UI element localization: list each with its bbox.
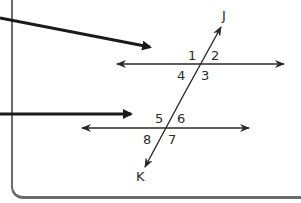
angle-label-7: 7 [168, 133, 176, 146]
diagram-lines [0, 0, 301, 203]
point-label-j: J [222, 9, 226, 22]
pointer-arrow-upper [0, 18, 150, 47]
point-label-k: K [136, 170, 145, 183]
angle-label-6: 6 [177, 112, 185, 125]
angle-label-4: 4 [177, 69, 185, 82]
angle-label-1: 1 [188, 49, 196, 62]
angle-label-3: 3 [201, 69, 209, 82]
diagram-canvas: J K 1 2 3 4 5 6 7 8 [0, 0, 301, 203]
angle-label-2: 2 [211, 49, 219, 62]
angle-label-8: 8 [143, 133, 151, 146]
angle-label-5: 5 [155, 112, 163, 125]
